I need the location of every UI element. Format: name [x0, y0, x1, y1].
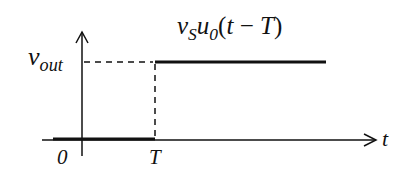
y-axis-label-sub: out: [40, 55, 63, 75]
step-response-diagram: vSu0(t − T) vout 0 T t: [0, 0, 407, 176]
origin-tick-label: 0: [57, 147, 68, 168]
curve-label-u-sub: 0: [209, 24, 218, 44]
curve-label-close-paren: ): [274, 12, 282, 39]
curve-label-arg-T: T: [260, 12, 274, 39]
curve-label-u: u: [197, 12, 210, 39]
curve-label-v: v: [177, 12, 188, 39]
y-axis-label: vout: [28, 44, 63, 75]
curve-label-v-sub: S: [188, 24, 197, 44]
x-axis-label: t: [382, 128, 388, 150]
y-axis-label-main: v: [28, 42, 40, 71]
curve-label-minus: −: [233, 12, 260, 39]
delay-tick-label: T: [149, 147, 161, 168]
curve-label: vSu0(t − T): [177, 13, 282, 44]
